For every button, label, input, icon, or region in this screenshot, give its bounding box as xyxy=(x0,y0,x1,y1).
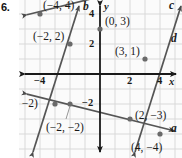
coordinate-graph: (−4, 4) (−2, 2) (0, 3) (3, 1) (−3, −2) (… xyxy=(19,0,182,158)
x-axis-label: x xyxy=(169,77,174,88)
point-neg4-4 xyxy=(37,11,42,16)
line-label-b: b xyxy=(83,1,89,13)
point-label-4-neg4: (4, −4) xyxy=(131,142,162,154)
point-label-3-1: (3, 1) xyxy=(115,46,140,58)
point-2-neg3 xyxy=(127,116,132,121)
y-axis-label: y xyxy=(104,2,109,13)
point-label-neg3-neg2: (−3, −2) xyxy=(19,98,38,110)
x-tick-label-neg4: −4 xyxy=(34,76,45,87)
x-tick-label-4: 4 xyxy=(157,76,162,87)
figure-root: 6. xyxy=(0,0,182,158)
point-neg2-neg2 xyxy=(67,101,72,106)
x-tick-label-2: 2 xyxy=(127,76,132,87)
point-4-neg4 xyxy=(157,131,162,136)
point-label-neg2-neg2: (−2, −2) xyxy=(46,122,84,134)
point-neg3-neg2 xyxy=(52,101,57,106)
point-label-0-3: (0, 3) xyxy=(105,16,130,28)
line-label-d: d xyxy=(171,33,177,45)
problem-number: 6. xyxy=(1,1,10,13)
y-tick-label-2: 2 xyxy=(89,39,94,50)
y-tick-label-neg2: −2 xyxy=(82,98,93,109)
point-label-neg2-2: (−2, 2) xyxy=(33,31,64,43)
line-label-c: c xyxy=(169,0,174,12)
point-label-2-neg3: (2, −3) xyxy=(135,110,166,122)
point-label-neg4-4: (−4, 4) xyxy=(43,0,74,12)
point-neg2-2 xyxy=(67,41,72,46)
point-3-1 xyxy=(142,56,147,61)
y-tick-label-4: 4 xyxy=(89,9,94,20)
line-label-a: a xyxy=(171,123,177,135)
point-0-3 xyxy=(97,26,102,31)
